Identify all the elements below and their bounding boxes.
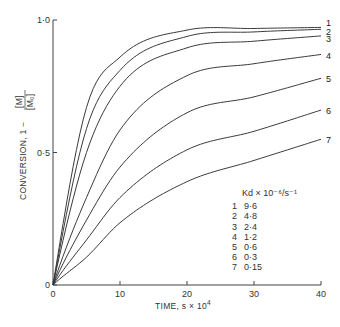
x-axis-label: TIME, s × 104 (155, 299, 211, 311)
curve-labels: 1234567 (326, 18, 331, 145)
curve-label-5: 5 (326, 74, 331, 84)
legend-curve-number: 4 (232, 232, 244, 242)
legend-row: 50·6 (232, 242, 297, 252)
legend-kd-value: 0·6 (244, 242, 257, 252)
legend-kd-value: 0·15 (244, 262, 262, 272)
legend-curve-number: 6 (232, 252, 244, 262)
curve-label-7: 7 (326, 135, 331, 145)
curve-label-3: 3 (326, 34, 331, 44)
legend-row: 41·2 (232, 232, 297, 242)
legend-row: 32·4 (232, 222, 297, 232)
svg-text:[M]: [M] (14, 95, 24, 108)
curve-label-4: 4 (326, 51, 331, 61)
conversion-chart: 01020304000·51·0 1234567 TIME, s × 104 C… (0, 0, 340, 327)
legend-curve-number: 2 (232, 211, 244, 221)
x-tick-label: 40 (316, 289, 326, 299)
x-tick-label: 0 (50, 289, 55, 299)
legend-kd-value: 0·3 (244, 252, 257, 262)
svg-text:CONVERSION, 1 −: CONVERSION, 1 − (18, 122, 28, 200)
y-tick-label: 0 (45, 280, 50, 290)
x-tick-label: 30 (249, 289, 259, 299)
svg-text:[M₀]: [M₀] (25, 93, 35, 110)
curve-label-6: 6 (326, 106, 331, 116)
legend-kd-value: 9·6 (244, 201, 257, 211)
legend-row: 19·6 (232, 201, 297, 211)
legend-curve-number: 3 (232, 222, 244, 232)
y-tick-label: 0·5 (37, 148, 50, 158)
legend: Kd × 10⁻⁶/s⁻¹ 19·624·832·441·250·660·370… (232, 188, 297, 273)
legend-kd-value: 1·2 (244, 232, 257, 242)
y-tick-label: 1·0 (37, 15, 50, 25)
legend-row: 60·3 (232, 252, 297, 262)
legend-row: 70·15 (232, 262, 297, 272)
legend-kd-value: 2·4 (244, 222, 257, 232)
x-tick-label: 20 (182, 289, 192, 299)
legend-curve-number: 5 (232, 242, 244, 252)
legend-row: 24·8 (232, 211, 297, 221)
x-tick-label: 10 (115, 289, 125, 299)
legend-kd-value: 4·8 (244, 211, 257, 221)
y-axis-label: CONVERSION, 1 − [M] [M₀] (14, 90, 35, 200)
legend-curve-number: 1 (232, 201, 244, 211)
legend-curve-number: 7 (232, 262, 244, 272)
legend-title: Kd × 10⁻⁶/s⁻¹ (242, 188, 297, 198)
